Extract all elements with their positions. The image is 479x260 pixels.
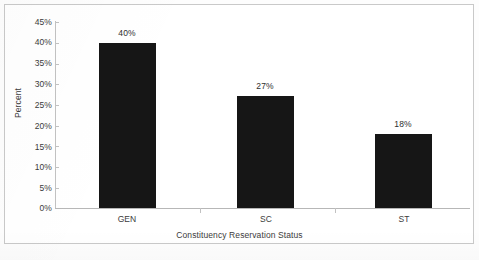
bar-gen[interactable] <box>99 43 156 208</box>
y-tick-label: 45% <box>18 18 52 27</box>
bar-value-label: 40% <box>97 28 157 38</box>
y-tick-label: 5% <box>18 184 52 193</box>
y-tick-label: 0% <box>18 204 52 213</box>
x-category-label-st: ST <box>364 214 444 224</box>
y-tick-label: 40% <box>18 38 52 47</box>
y-axis-ticks: 45% 40% 35% 30% 25% 20% 15% 10% 5% 0% <box>12 0 52 260</box>
category-separator <box>335 208 336 213</box>
category-separator <box>200 208 201 213</box>
bar-value-label: 18% <box>373 119 433 129</box>
x-category-label-gen: GEN <box>87 214 167 224</box>
y-tick-label: 20% <box>18 122 52 131</box>
y-tick-label: 30% <box>18 80 52 89</box>
x-axis-line <box>55 208 470 209</box>
x-axis-title: Constituency Reservation Status <box>0 230 479 240</box>
y-axis-line <box>55 21 56 209</box>
y-tick-label: 15% <box>18 143 52 152</box>
y-tick-label: 25% <box>18 101 52 110</box>
bar-value-label: 27% <box>235 81 295 91</box>
y-tick-label: 10% <box>18 163 52 172</box>
bar-st[interactable] <box>375 134 432 208</box>
x-category-label-sc: SC <box>226 214 306 224</box>
chart-screenshot: Percent 45% 40% 35% 30% 25% 20% 15% 10% … <box>0 0 479 260</box>
bar-sc[interactable] <box>237 96 294 208</box>
y-tick-label: 35% <box>18 59 52 68</box>
